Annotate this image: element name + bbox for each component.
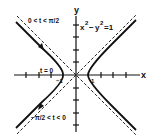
svg-text:=1: =1 [104, 23, 114, 32]
annotation-upper-branch: 0 < t < π/2 [28, 17, 59, 24]
tick-label-pos-one: 1 [91, 78, 95, 84]
equation-label: x 2 − y 2 =1 [80, 20, 114, 32]
x-axis-label: x [141, 70, 146, 80]
svg-text:−: − [89, 23, 94, 32]
tick-label-neg-one: −1 [56, 78, 64, 84]
hyperbola-diagram: y x x 2 − y 2 =1 0 < t < π/2 −π/2 < t < … [0, 0, 153, 140]
annotation-vertex: t = 0 [40, 67, 54, 74]
y-axis-label: y [74, 5, 79, 15]
annotation-lower-branch: −π/2 < t < 0 [31, 114, 66, 121]
